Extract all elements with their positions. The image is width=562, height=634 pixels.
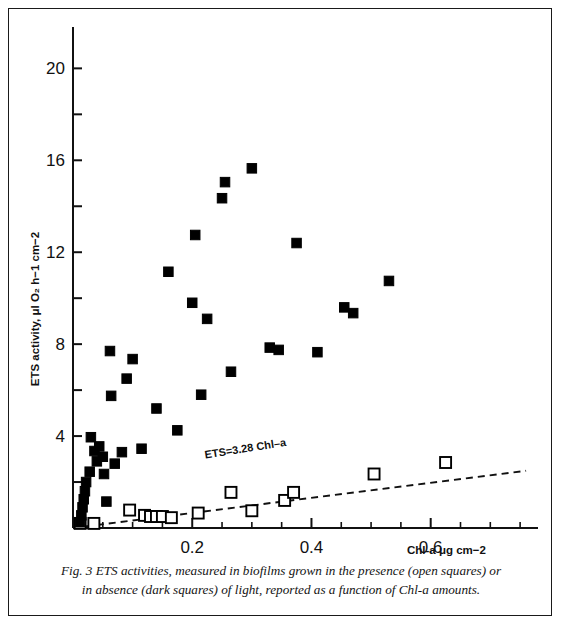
- x-axis-tick-labels: 0.20.40.6: [180, 538, 442, 557]
- regression-equation-label: ETS=3.28 Chl–a: [204, 436, 288, 461]
- data-point-open-square: [193, 508, 204, 519]
- x-axis-title: Chl-a μg cm−2: [407, 544, 486, 556]
- data-point-dark-square: [292, 238, 302, 248]
- data-point-dark-square: [340, 303, 350, 313]
- data-point-dark-square: [110, 459, 120, 469]
- y-tick-label: 12: [46, 243, 65, 262]
- plot-area: 48121620 0.20.40.6 ETS=3.28 Chl–a Chl-a …: [9, 9, 553, 557]
- y-tick-label: 20: [46, 59, 65, 78]
- data-point-dark-square: [384, 276, 394, 286]
- y-tick-label: 4: [56, 427, 65, 446]
- annotation-group: ETS=3.28 Chl–a: [204, 436, 288, 461]
- data-point-open-square: [369, 468, 380, 479]
- data-point-dark-square: [117, 447, 127, 457]
- data-point-dark-square: [274, 345, 284, 355]
- data-point-dark-square: [313, 347, 323, 357]
- caption-line-1: Fig. 3 ETS activities, measured in biofi…: [61, 561, 501, 580]
- data-point-dark-square: [220, 177, 230, 187]
- y-tick-label: 8: [56, 335, 65, 354]
- data-point-dark-square: [190, 230, 200, 240]
- data-point-dark-square: [348, 308, 358, 318]
- figure-frame: 48121620 0.20.40.6 ETS=3.28 Chl–a Chl-a …: [8, 8, 552, 616]
- data-point-dark-square: [164, 267, 174, 277]
- data-point-dark-square: [196, 390, 206, 400]
- data-point-dark-square: [86, 432, 96, 442]
- series-open-squares: [75, 457, 451, 529]
- data-point-dark-square: [265, 343, 275, 353]
- x-tick-label: 0.2: [180, 538, 204, 557]
- data-point-dark-square: [226, 367, 236, 377]
- data-point-dark-square: [102, 497, 112, 507]
- data-point-dark-square: [98, 452, 108, 462]
- x-axis-ticks: [192, 518, 430, 528]
- data-point-dark-square: [85, 467, 95, 477]
- data-point-open-square: [88, 518, 99, 529]
- data-point-open-square: [288, 487, 299, 498]
- data-point-dark-square: [106, 391, 116, 401]
- data-point-dark-square: [81, 477, 91, 487]
- data-point-dark-square: [247, 164, 257, 174]
- data-point-dark-square: [128, 354, 138, 364]
- data-point-dark-square: [80, 486, 90, 496]
- data-point-dark-square: [105, 346, 115, 356]
- data-point-dark-square: [173, 426, 183, 436]
- data-point-dark-square: [152, 404, 162, 414]
- data-point-open-square: [124, 505, 135, 516]
- y-axis-tick-labels: 48121620: [46, 59, 65, 446]
- data-point-open-square: [440, 457, 451, 468]
- x-tick-label: 0.4: [300, 538, 324, 557]
- data-point-dark-square: [137, 444, 147, 454]
- y-axis-title: ETS activity, μl O₂ h−1 cm−2: [29, 232, 41, 386]
- data-point-dark-square: [94, 442, 104, 452]
- data-point-dark-square: [187, 298, 197, 308]
- y-axis-ticks: [73, 68, 82, 482]
- data-point-open-square: [166, 512, 177, 523]
- data-point-dark-square: [202, 314, 212, 324]
- figure-caption: Fig. 3 ETS activities, measured in biofi…: [9, 557, 553, 617]
- caption-line-2: in absence (dark squares) of light, repo…: [82, 580, 480, 599]
- data-point-open-square: [246, 505, 257, 516]
- y-tick-label: 16: [46, 151, 65, 170]
- data-point-dark-square: [217, 193, 227, 203]
- data-point-dark-square: [99, 469, 109, 479]
- data-point-dark-square: [122, 374, 131, 384]
- series-dark-squares: [75, 164, 393, 527]
- scatter-plot-svg: 48121620 0.20.40.6 ETS=3.28 Chl–a Chl-a …: [9, 9, 553, 557]
- data-point-open-square: [225, 487, 236, 498]
